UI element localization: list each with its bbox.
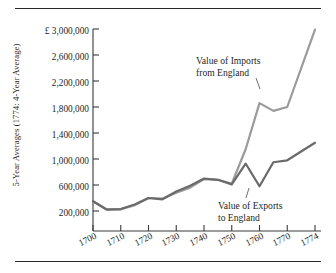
chart-plot-svg xyxy=(0,10,336,258)
annotation-exports: Value of Exports to England xyxy=(218,200,282,223)
bottom-rule xyxy=(15,261,321,262)
imports-leader-line xyxy=(256,78,260,89)
y-axis-ticks xyxy=(93,29,99,211)
annotation-imports-line1: Value of Imports xyxy=(196,55,260,67)
annotation-imports-line2: from England xyxy=(196,67,260,79)
top-rule xyxy=(15,8,321,9)
plot-area: £ 3,000,000 2,600,000 2,200,000 1,800,00… xyxy=(0,10,336,258)
exports-leader-line xyxy=(246,188,249,198)
annotation-imports: Value of Imports from England xyxy=(196,55,260,78)
annotation-exports-line1: Value of Exports xyxy=(218,200,282,212)
figure-container: £ 3,000,000 2,600,000 2,200,000 1,800,00… xyxy=(0,0,336,273)
annotation-exports-line2: to England xyxy=(218,212,282,224)
